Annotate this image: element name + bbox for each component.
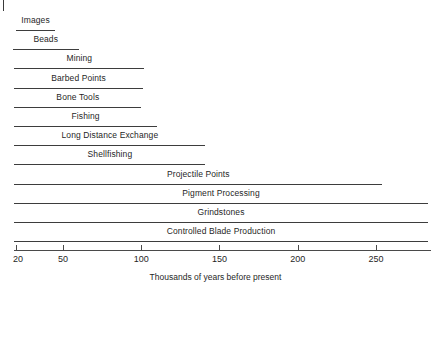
range-bar-line [13, 49, 79, 50]
range-bar-label: Mining [14, 52, 144, 64]
x-axis-tick [298, 245, 299, 251]
range-bar-label: Pigment Processing [14, 187, 427, 199]
range-bar-line [14, 222, 427, 223]
x-axis-tick-label: 200 [290, 254, 305, 265]
range-bar-line [14, 107, 141, 108]
range-bar-row: Barbed Points [14, 72, 142, 91]
range-bar-row: Fishing [14, 110, 156, 129]
x-axis-tick-label: 250 [368, 254, 383, 265]
range-bar-label: Long Distance Exchange [14, 129, 205, 141]
x-axis-title: Thousands of years before present [0, 272, 431, 283]
range-bar-label: Shellfishing [14, 148, 205, 160]
range-bar-line [14, 126, 156, 127]
x-axis-tick-label: 20 [13, 254, 23, 265]
x-axis-tick-label: 100 [134, 254, 149, 265]
range-bar-label: Barbed Points [14, 72, 142, 84]
range-bar-line [14, 145, 205, 146]
range-bar-row: Grindstones [14, 206, 427, 225]
range-bar-line [14, 184, 382, 185]
range-bar-row: Shellfishing [14, 148, 205, 167]
range-bar-label: Beads [13, 33, 79, 45]
range-bar-row: Pigment Processing [14, 187, 427, 206]
range-bar-line [14, 68, 144, 69]
range-bar-row: Beads [13, 33, 79, 52]
range-bar-row: Images [16, 14, 55, 33]
range-bar-label: Fishing [14, 110, 156, 122]
range-bar-label: Bone Tools [14, 91, 141, 103]
range-bar-row: Projectile Points [14, 168, 382, 187]
range-bar-row: Mining [14, 52, 144, 71]
range-bar-row: Long Distance Exchange [14, 129, 205, 148]
range-bar-row: Bone Tools [14, 91, 141, 110]
range-bar-label: Grindstones [14, 206, 427, 218]
x-axis-tick [16, 245, 17, 251]
range-bar-label: Images [16, 14, 55, 26]
range-bar-line [14, 241, 427, 242]
range-bar-line [14, 203, 427, 204]
x-axis-line [14, 250, 431, 251]
x-axis-tick [141, 245, 142, 251]
range-bar-line [14, 88, 142, 89]
timeline-range-chart: ImagesBeadsMiningBarbed PointsBone Tools… [0, 0, 431, 337]
range-bar-line [14, 164, 205, 165]
x-axis: Thousands of years before present 205010… [0, 250, 431, 292]
range-bar-label: Projectile Points [14, 168, 382, 180]
x-axis-tick-label: 150 [212, 254, 227, 265]
x-axis-tick [63, 245, 64, 251]
range-bar-line [16, 30, 55, 31]
x-axis-tick-label: 50 [58, 254, 68, 265]
x-axis-tick [219, 245, 220, 251]
x-axis-tick [376, 245, 377, 251]
range-bar-label: Controlled Blade Production [14, 225, 427, 237]
range-bar-row: Controlled Blade Production [14, 225, 427, 244]
